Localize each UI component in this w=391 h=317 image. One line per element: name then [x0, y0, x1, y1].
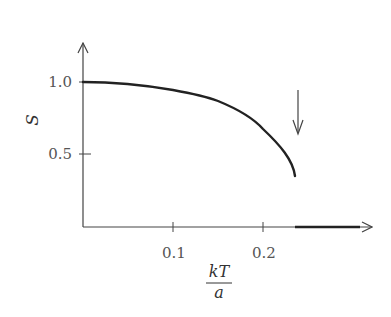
- x-label-denominator: a: [214, 283, 224, 302]
- x-axis-label: kT a: [206, 262, 232, 302]
- transition-arrow-icon: [293, 90, 303, 134]
- y-tick-label-1: 1.0: [48, 73, 72, 91]
- y-axis-label: S: [22, 114, 42, 126]
- y-tick-label-0: 0.5: [48, 145, 72, 163]
- order-parameter-curve: [83, 82, 295, 176]
- x-label-numerator: kT: [209, 262, 231, 281]
- x-tick-label-1: 0.2: [252, 244, 276, 262]
- x-tick-label-0: 0.1: [162, 244, 186, 262]
- y-ticks: [79, 82, 91, 154]
- order-parameter-chart: 1.0 0.5 0.1 0.2 S kT a: [0, 0, 391, 317]
